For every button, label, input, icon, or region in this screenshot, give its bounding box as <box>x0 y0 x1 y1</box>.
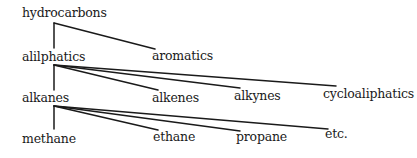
edge-hydrocarbons-aromatics <box>54 23 155 49</box>
node-alkynes: alkynes <box>234 89 281 103</box>
node-cycloaliphatics: cycloaliphatics <box>323 87 414 101</box>
node-alilphatics: alilphatics <box>22 50 85 64</box>
hydrocarbon-classification-tree: hydrocarbons alilphatics aromatics alkan… <box>0 0 417 158</box>
node-ethane: ethane <box>153 130 195 144</box>
node-methane: methane <box>22 132 76 146</box>
edge-alkanes-etc <box>54 106 328 129</box>
node-alkenes: alkenes <box>152 91 199 105</box>
node-alkanes: alkanes <box>22 91 69 105</box>
node-propane: propane <box>236 130 287 144</box>
node-etc: etc. <box>325 127 348 141</box>
node-aromatics: aromatics <box>152 49 213 63</box>
node-hydrocarbons: hydrocarbons <box>22 6 107 20</box>
